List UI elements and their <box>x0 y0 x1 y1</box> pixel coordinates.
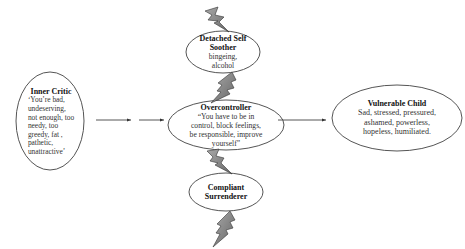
detached-self-soother-node: Detached Self Soother bingeing, alcohol <box>190 32 256 72</box>
inner-critic-description: ‘You’re bad, undeserving, not enough, to… <box>28 96 74 156</box>
lightning-bolt-icon <box>205 7 229 32</box>
lightning-bolt-icon <box>213 211 235 247</box>
vulnerable-child-node: Vulnerable Child Sad, stressed, pressure… <box>336 90 458 146</box>
overcontroller-node: Overcontroller “You have to be in contro… <box>172 102 280 148</box>
detached-self-soother-title: Detached Self Soother <box>195 34 251 52</box>
overcontroller-title: Overcontroller <box>201 103 252 112</box>
detached-self-soother-description: bingeing, alcohol <box>209 52 237 70</box>
vulnerable-child-description: Sad, stressed, pressured, ashamed, power… <box>358 108 436 137</box>
lightning-bolt-icon <box>211 72 236 103</box>
lightning-bolt-icon <box>207 149 232 174</box>
overcontroller-description: “You have to be in control, block feelin… <box>190 112 263 148</box>
vulnerable-child-title: Vulnerable Child <box>368 99 427 108</box>
inner-critic-node: Inner Critic ‘You’re bad, undeserving, n… <box>18 76 84 168</box>
compliant-surrenderer-node: Compliant Surrenderer <box>195 176 257 208</box>
compliant-surrenderer-title: Compliant Surrenderer <box>199 183 253 201</box>
